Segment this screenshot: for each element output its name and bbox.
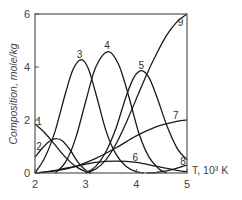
curve-label-2: 2 (36, 141, 42, 152)
curve-label-1: 1 (36, 116, 42, 127)
curve-label-8: 8 (180, 156, 186, 167)
x-tick-label: 4 (133, 178, 139, 190)
chart: 0246 2345 123456789 Composition, mole/kg… (0, 0, 242, 200)
curve-label-5: 5 (139, 60, 145, 71)
x-axis-label: T, 10³ K (192, 164, 228, 176)
curve-4 (55, 52, 166, 173)
curve-label-3: 3 (77, 49, 83, 60)
y-tick-label: 4 (24, 61, 30, 73)
x-tick-label: 2 (32, 178, 38, 190)
curve-label-6: 6 (133, 152, 139, 163)
curve-label-7: 7 (173, 110, 179, 121)
y-axis-ticks: 0246 (24, 8, 39, 179)
curve-7 (35, 120, 187, 173)
curve-2 (35, 139, 91, 173)
y-tick-label: 2 (24, 114, 30, 126)
curves-group (35, 14, 187, 173)
y-tick-label: 0 (24, 167, 30, 179)
curve-3 (35, 60, 144, 173)
curve-9 (86, 14, 187, 173)
curve-label-4: 4 (104, 40, 110, 51)
y-axis-label: Composition, mole/kg (7, 43, 19, 144)
y-tick-label: 6 (24, 8, 30, 20)
x-tick-label: 3 (83, 178, 89, 190)
curve-label-9: 9 (178, 17, 184, 28)
x-tick-label: 5 (184, 178, 190, 190)
